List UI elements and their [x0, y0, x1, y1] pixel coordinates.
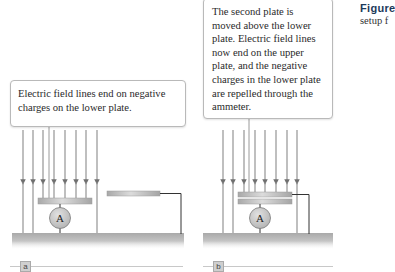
figure-caption: Figure setup f	[360, 2, 395, 26]
callout-b: The second plate is moved above the lowe…	[203, 0, 333, 119]
callout-b-text: The second plate is moved above the lowe…	[212, 6, 321, 112]
callout-a-text: Electric field lines end on negative cha…	[18, 88, 165, 113]
ground-b	[203, 233, 333, 249]
figure-caption-text: setup f	[360, 15, 395, 26]
ground-a	[12, 233, 184, 249]
panel-b	[203, 119, 333, 267]
panel-tag-a: a	[20, 261, 31, 272]
upper-plate-b	[238, 192, 292, 197]
second-plate-a	[107, 191, 160, 196]
panel-a	[10, 127, 184, 267]
upper-plate-wire-b	[292, 195, 309, 235]
lower-plate-b	[238, 199, 292, 204]
ammeter-symbol-a: A	[56, 212, 64, 224]
ammeter-symbol-b: A	[256, 212, 264, 224]
callout-a: Electric field lines end on negative cha…	[10, 80, 186, 127]
figure-label: Figure	[360, 2, 395, 14]
panel-tag-b: b	[213, 261, 224, 272]
second-plate-wire-a	[160, 194, 181, 235]
lower-plate-a	[38, 198, 92, 204]
